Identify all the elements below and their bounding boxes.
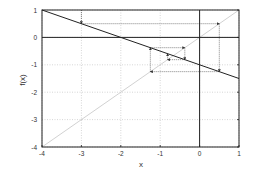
x-tick-label: -4 bbox=[39, 150, 45, 157]
x-tick-label: -3 bbox=[79, 150, 85, 157]
x-tick-label: 0 bbox=[198, 150, 202, 157]
chart-svg: -4-3-2-101 -4-3-2-101 x f(x) bbox=[0, 0, 255, 174]
x-axis-label: x bbox=[139, 160, 143, 169]
cobweb-path bbox=[81, 10, 219, 72]
y-tick-label: -4 bbox=[31, 144, 37, 151]
identity-line-path bbox=[42, 10, 239, 147]
y-tick-label: -3 bbox=[31, 116, 37, 123]
x-tick-label: -1 bbox=[157, 150, 163, 157]
y-tick-label: 1 bbox=[33, 7, 37, 14]
identity-line bbox=[42, 10, 239, 147]
function-line-path bbox=[42, 10, 239, 79]
y-tick-label: -2 bbox=[31, 89, 37, 96]
function-line bbox=[42, 10, 239, 79]
cobweb-chart: -4-3-2-101 -4-3-2-101 x f(x) bbox=[0, 0, 255, 174]
x-tick-label: 1 bbox=[237, 150, 241, 157]
x-tick-label: -2 bbox=[118, 150, 124, 157]
y-axis-label: f(x) bbox=[18, 74, 27, 86]
y-tick-label: -1 bbox=[31, 61, 37, 68]
y-tick-label: 0 bbox=[33, 34, 37, 41]
y-tick-labels: -4-3-2-101 bbox=[31, 7, 239, 151]
